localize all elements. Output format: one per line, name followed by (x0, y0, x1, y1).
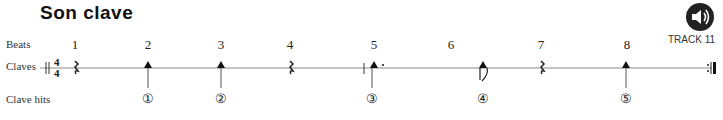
clave-hit-number: ① (138, 91, 158, 107)
clave-note-icon (144, 61, 152, 68)
clave-note-icon (217, 61, 225, 68)
clave-note-icon (479, 61, 487, 68)
clave-hit-number: ⑤ (616, 91, 636, 107)
clave-hit-number: ② (211, 91, 231, 107)
dot-icon (382, 64, 384, 66)
clave-note-icon (622, 61, 630, 68)
time-signature-bottom: 4 (54, 67, 60, 79)
clave-hit-number: ③ (362, 91, 382, 107)
eighth-flag-icon (480, 68, 487, 81)
clave-note-icon (370, 61, 378, 68)
clave-hit-number: ④ (473, 91, 493, 107)
